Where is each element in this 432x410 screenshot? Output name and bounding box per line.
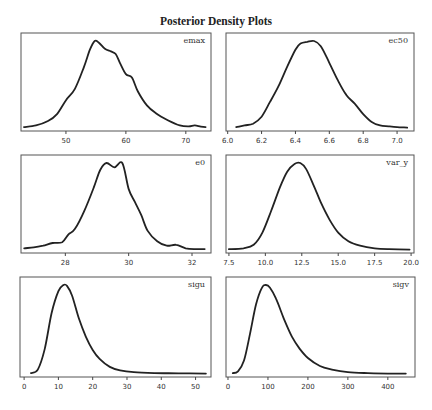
density-curve	[233, 285, 406, 374]
plot-frame	[21, 155, 211, 253]
x-tick-label: 6.8	[358, 137, 369, 145]
x-tick-label: 60	[121, 137, 130, 145]
density-curve	[24, 41, 206, 128]
panel-emax: 506070emax	[21, 33, 211, 145]
x-tick-label: 50	[191, 383, 200, 391]
plot-frame	[226, 155, 414, 253]
x-tick-label: 6.0	[222, 137, 233, 145]
x-tick-label: 12.5	[294, 259, 310, 267]
x-tick-label: 17.5	[367, 259, 383, 267]
x-tick-label: 400	[381, 383, 394, 391]
panel-e0: 283032e0	[21, 155, 211, 267]
panel-sigu: 01020304050sigu	[20, 277, 211, 391]
plot-frame	[226, 277, 415, 377]
x-tick-label: 100	[261, 383, 274, 391]
x-tick-label: 20.0	[403, 259, 419, 267]
x-tick-label: 20	[88, 383, 97, 391]
plot-frame	[21, 33, 211, 131]
x-tick-label: 30	[124, 259, 133, 267]
x-tick-label: 28	[61, 259, 70, 267]
variable-label: ec50	[389, 36, 408, 45]
x-tick-label: 50	[61, 137, 70, 145]
x-tick-label: 10.0	[258, 259, 274, 267]
x-tick-label: 7.0	[391, 137, 402, 145]
x-tick-label: 10	[54, 383, 63, 391]
x-tick-label: 6.4	[290, 137, 302, 145]
x-tick-label: 15.0	[330, 259, 346, 267]
x-tick-label: 300	[341, 383, 354, 391]
x-tick-label: 0	[226, 383, 230, 391]
x-tick-label: 200	[301, 383, 314, 391]
panel-ec50: 6.06.26.46.66.87.0ec50	[222, 33, 414, 145]
x-tick-label: 70	[181, 137, 190, 145]
variable-label: sigv	[393, 280, 410, 289]
x-tick-label: 6.2	[256, 137, 267, 145]
plot-frame	[226, 33, 414, 131]
variable-label: e0	[195, 158, 205, 167]
panel-sigv: 0100200300400sigv	[226, 277, 415, 391]
x-tick-label: 7.5	[223, 259, 234, 267]
x-tick-label: 6.6	[324, 137, 336, 145]
x-tick-label: 40	[157, 383, 166, 391]
density-curve	[236, 41, 407, 128]
panel-var-y: 7.510.012.515.017.520.0var_y	[223, 155, 419, 267]
density-curve	[229, 162, 410, 249]
density-curve	[24, 162, 205, 249]
x-tick-label: 0	[22, 383, 26, 391]
x-tick-label: 32	[188, 259, 197, 267]
x-tick-label: 30	[123, 383, 132, 391]
density-curve	[31, 284, 206, 373]
variable-label: var_y	[385, 158, 408, 167]
variable-label: sigu	[188, 280, 205, 289]
variable-label: emax	[183, 36, 205, 45]
